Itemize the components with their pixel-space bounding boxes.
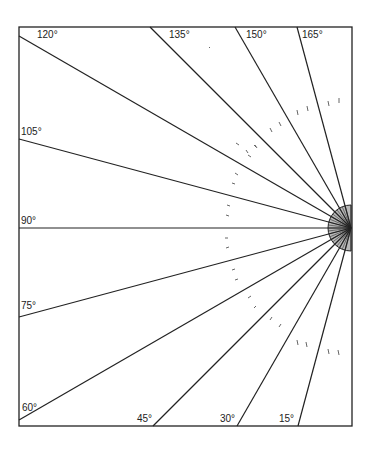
label-45: 45° xyxy=(137,414,152,424)
ray-30 xyxy=(237,228,351,426)
ray-135 xyxy=(150,27,351,228)
label-90: 90° xyxy=(21,216,36,226)
arc-tick-marks xyxy=(209,47,339,355)
angle-diagram xyxy=(0,0,371,451)
ray-105 xyxy=(19,139,351,228)
ray-120 xyxy=(19,36,351,228)
ray-150 xyxy=(235,27,351,228)
label-165: 165° xyxy=(302,30,323,40)
diagram-frame xyxy=(19,27,352,426)
label-30: 30° xyxy=(220,414,235,424)
label-135: 135° xyxy=(169,30,190,40)
label-150: 150° xyxy=(246,30,267,40)
label-120: 120° xyxy=(37,30,58,40)
angle-rays xyxy=(19,27,351,426)
label-75: 75° xyxy=(21,301,36,311)
ray-15 xyxy=(298,228,351,426)
label-60: 60° xyxy=(22,403,37,413)
label-15: 15° xyxy=(279,414,294,424)
label-105: 105° xyxy=(21,127,42,137)
ray-75 xyxy=(19,228,351,317)
ray-165 xyxy=(297,27,351,228)
ray-60 xyxy=(19,228,351,420)
ray-45 xyxy=(153,228,351,426)
